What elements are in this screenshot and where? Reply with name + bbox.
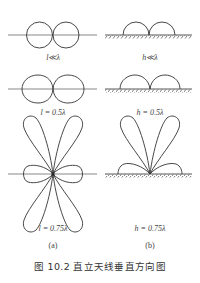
sublabel-b: (b)	[130, 241, 170, 250]
figure-caption: 图 10.2 直立天线垂直方向图	[0, 259, 200, 273]
label-a3: l = 0.75λ	[13, 224, 93, 233]
pattern-a1	[8, 22, 97, 48]
pattern-b2	[105, 75, 192, 93]
pattern-b1	[105, 22, 192, 39]
label-a1: l≪λ	[13, 53, 93, 62]
pattern-a2	[8, 75, 97, 103]
label-b2: h = 0.5λ	[110, 108, 190, 117]
label-b1: h≪λ	[110, 53, 190, 62]
pattern-b3	[105, 116, 192, 177]
label-a2: l = 0.5λ	[13, 108, 93, 117]
pattern-a3	[8, 116, 97, 232]
antenna-pattern-figure	[0, 0, 200, 283]
label-b3: h = 0.75λ	[110, 224, 190, 233]
sublabel-a: (a)	[33, 241, 73, 250]
